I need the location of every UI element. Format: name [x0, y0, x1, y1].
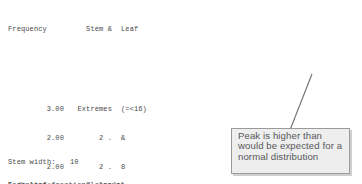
column-header-leaf: Leaf [112, 26, 138, 33]
stem-width-value: 10 [70, 159, 79, 167]
column-header-stem: Stem & [64, 26, 112, 33]
cell-frequency: 3.00 [8, 106, 64, 113]
fractional-leaves-note: & denotes fractional leaves. [8, 182, 129, 184]
header-spacer [8, 55, 320, 62]
cell-frequency: 2.00 [8, 135, 64, 142]
header-spacer-2 [8, 77, 320, 84]
cell-leaf: & [112, 135, 125, 142]
cell-leaf: (=<16) [112, 106, 147, 113]
stem-width-line: Stem width:10 [8, 159, 125, 167]
plot-footer-note: & denotes fractional leaves. [8, 167, 129, 184]
table-row: 3.00Extremes(=<16) [8, 106, 320, 113]
column-header-frequency: Frequency [8, 26, 64, 33]
stem-and-leaf-plot-screenshot: FrequencyStem &Leaf 3.00Extremes(=<16) 2… [0, 0, 362, 184]
stem-width-label: Stem width: [8, 159, 70, 167]
annotation-callout-text: Peak is higher than would be expected fo… [238, 131, 346, 162]
cell-stem: 2 . [64, 135, 112, 142]
table-header-row: FrequencyStem &Leaf [8, 26, 320, 33]
cell-stem: Extremes [64, 106, 112, 113]
